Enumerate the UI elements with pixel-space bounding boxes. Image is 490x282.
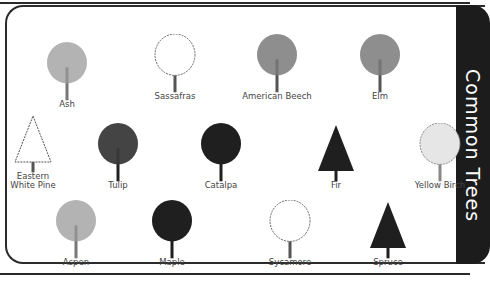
- tree-label: Sycamore: [269, 258, 311, 267]
- tree-icon: [150, 34, 200, 94]
- tree-label: Fir: [331, 181, 341, 190]
- tree-icon: [265, 200, 315, 260]
- tree-label: American Beech: [242, 92, 312, 101]
- tree-label: Elm: [372, 92, 388, 101]
- tree-label: Tulip: [108, 181, 127, 190]
- top-divider: [0, 2, 470, 4]
- tree-label: Ash: [59, 100, 75, 109]
- tree-icon: [196, 123, 246, 183]
- tree-label: Sassafras: [155, 92, 196, 101]
- bottom-divider: [0, 273, 470, 275]
- tree-icon: [311, 123, 361, 183]
- tree-icon: [355, 34, 405, 94]
- tree-icon: [415, 123, 465, 183]
- tree-icon: [363, 200, 413, 260]
- tree-label: Yellow Birch: [415, 181, 465, 190]
- tree-icon: [42, 42, 92, 102]
- tree-icon: [147, 200, 197, 260]
- tree-icon: [51, 200, 101, 260]
- tree-icon: [93, 123, 143, 183]
- tree-icon: [252, 34, 302, 94]
- tree-label: Spruce: [373, 258, 403, 267]
- tree-label: Aspen: [63, 258, 89, 267]
- tree-label: Catalpa: [205, 181, 238, 190]
- tree-icon: [8, 114, 58, 174]
- tree-label: EasternWhite Pine: [10, 172, 55, 190]
- tree-label: Maple: [159, 258, 185, 267]
